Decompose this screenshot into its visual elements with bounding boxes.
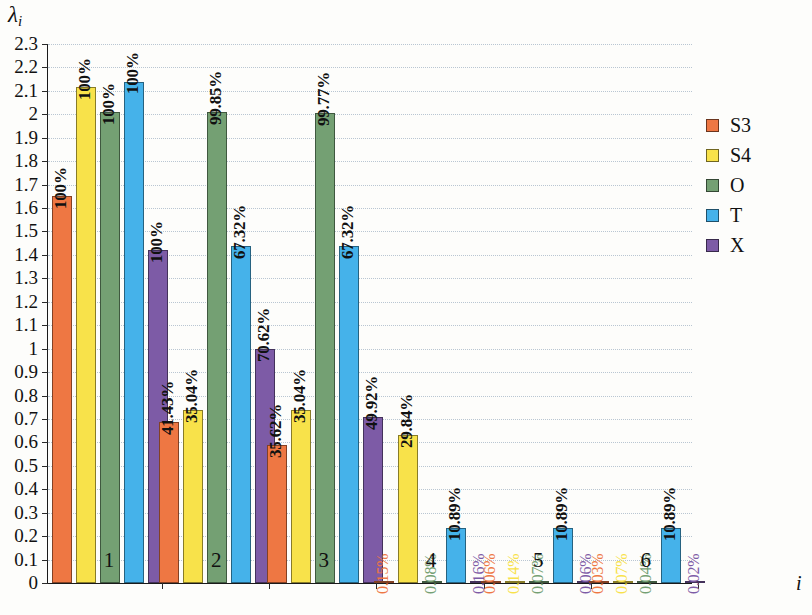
x-axis-group-label-6: 6 <box>616 548 676 573</box>
gridline <box>48 208 692 209</box>
y-axis-label: 1.9 <box>0 128 38 147</box>
y-axis-label: 0.7 <box>0 409 38 428</box>
bar-o-group-2 <box>207 112 227 583</box>
y-axis-tick <box>42 583 48 584</box>
bar-value-label: 29.84% <box>398 394 415 448</box>
bar-value-label: 35.04% <box>291 369 308 423</box>
x-axis-group-label-3: 3 <box>294 548 354 573</box>
y-axis-label: 1.8 <box>0 151 38 170</box>
x-axis-group-label-5: 5 <box>508 548 568 573</box>
y-axis-tick <box>42 349 48 350</box>
bar-value-label: 0.02% <box>686 554 702 594</box>
gridline <box>48 67 692 68</box>
legend-label: X <box>730 235 744 255</box>
bar-value-label: 100% <box>76 59 93 101</box>
y-axis-label: 1.5 <box>0 221 38 240</box>
y-axis-label: 0.8 <box>0 386 38 405</box>
y-axis-tick <box>42 442 48 443</box>
bar-value-label: 35.62% <box>267 404 284 458</box>
y-axis-tick <box>42 419 48 420</box>
bar-value-label: 100% <box>124 53 141 95</box>
bar-s3-group-2 <box>159 422 179 583</box>
y-axis-tick <box>42 278 48 279</box>
x-axis-tick <box>269 583 270 589</box>
y-axis-tick <box>42 372 48 373</box>
plot-area <box>47 44 692 584</box>
y-axis-tick <box>42 138 48 139</box>
y-axis-title: λi <box>8 2 22 30</box>
y-axis-tick <box>42 91 48 92</box>
gridline <box>48 185 692 186</box>
bar-value-label: 10.89% <box>553 487 570 541</box>
legend-swatch-icon <box>706 239 719 252</box>
legend-label: O <box>730 175 744 195</box>
gridline <box>48 231 692 232</box>
x-axis-title: i <box>796 572 802 595</box>
legend-swatch-icon <box>706 179 719 192</box>
y-axis-tick <box>42 114 48 115</box>
legend-item-s3[interactable]: S3 <box>706 110 751 140</box>
y-axis-tick <box>42 231 48 232</box>
bar-value-label: 99.85% <box>207 71 224 125</box>
gridline <box>48 325 692 326</box>
y-axis-label: 2.2 <box>0 57 38 76</box>
legend-item-x[interactable]: X <box>706 230 751 260</box>
y-axis-tick <box>42 325 48 326</box>
y-axis-tick <box>42 185 48 186</box>
bar-value-label: 100% <box>100 83 117 125</box>
gridline <box>48 114 692 115</box>
y-axis-label: 2.1 <box>0 81 38 100</box>
y-axis-label: 0.1 <box>0 550 38 569</box>
y-axis-label: 1.7 <box>0 175 38 194</box>
y-axis-label: 0.4 <box>0 479 38 498</box>
bar-value-label: 100% <box>52 168 69 210</box>
y-axis-tick <box>42 208 48 209</box>
y-axis-tick <box>42 489 48 490</box>
bar-value-label: 0.06% <box>482 554 498 594</box>
bar-value-label: 67.32% <box>231 204 248 258</box>
bar-t-group-1 <box>124 82 144 584</box>
y-axis-tick <box>42 44 48 45</box>
gridline <box>48 255 692 256</box>
legend-item-t[interactable]: T <box>706 200 751 230</box>
y-axis-label: 1.2 <box>0 292 38 311</box>
gridline <box>48 91 692 92</box>
legend-label: S4 <box>730 145 751 165</box>
bar-value-label: 0.03% <box>590 554 606 594</box>
bar-o-group-3 <box>315 113 335 583</box>
bar-value-label: 10.89% <box>661 487 678 541</box>
bar-value-label: 0.15% <box>375 554 391 594</box>
legend-item-o[interactable]: O <box>706 170 751 200</box>
bar-value-label: 100% <box>148 222 165 264</box>
legend-swatch-icon <box>706 149 719 162</box>
gridline <box>48 349 692 350</box>
y-axis-tick <box>42 161 48 162</box>
y-axis-tick <box>42 466 48 467</box>
y-axis-tick <box>42 560 48 561</box>
x-axis-group-label-4: 4 <box>401 548 461 573</box>
gridline <box>48 44 692 45</box>
y-axis-label: 1.6 <box>0 198 38 217</box>
x-axis-group-label-2: 2 <box>186 548 246 573</box>
y-axis-label: 1.1 <box>0 315 38 334</box>
legend-label: T <box>730 205 742 225</box>
y-axis-tick <box>42 536 48 537</box>
bar-s3-group-3 <box>267 445 287 583</box>
bar-chart: λi i S3S4OTX 00.10.20.30.40.50.60.70.80.… <box>0 0 812 615</box>
y-axis-tick <box>42 67 48 68</box>
gridline <box>48 278 692 279</box>
legend-label: S3 <box>730 115 751 135</box>
gridline <box>48 138 692 139</box>
legend-item-s4[interactable]: S4 <box>706 140 751 170</box>
y-axis-label: 1 <box>0 339 38 358</box>
bar-value-label: 70.62% <box>255 308 272 362</box>
y-axis-tick <box>42 255 48 256</box>
bar-s4-group-1 <box>76 87 96 583</box>
legend-swatch-icon <box>706 119 719 132</box>
y-axis-label: 0.2 <box>0 526 38 545</box>
bar-value-label: 49.92% <box>363 376 380 430</box>
y-axis-label: 0.9 <box>0 362 38 381</box>
bar-value-label: 35.04% <box>183 369 200 423</box>
y-axis-label: 1.4 <box>0 245 38 264</box>
y-axis-label: 2 <box>0 104 38 123</box>
